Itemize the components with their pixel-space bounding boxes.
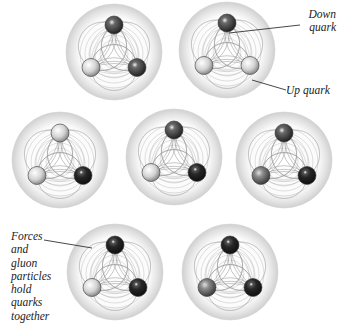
down-quark-label-line1: Down xyxy=(292,8,336,21)
hadron-sphere xyxy=(67,224,163,320)
down-quark-bottom-right-icon xyxy=(129,279,147,297)
down-quark-label-line2: quark xyxy=(292,21,336,34)
down-quark-bottom-right-icon xyxy=(244,279,262,297)
hadron-sphere xyxy=(179,2,275,98)
forces-label-line: hold xyxy=(11,283,51,296)
up-quark-bottom-left-icon xyxy=(28,167,46,185)
down-quark-bottom-right-icon xyxy=(188,164,206,182)
down-quark-top-icon xyxy=(221,236,239,254)
hadron-sphere xyxy=(182,224,278,320)
forces-label-line: and xyxy=(11,243,51,256)
forces-label-line: together xyxy=(11,310,51,323)
down-quark-bottom-right-icon xyxy=(128,59,146,77)
down-quark-bottom-left-icon xyxy=(252,167,270,185)
hadron-sphere xyxy=(66,4,162,100)
down-quark-bottom-left-icon xyxy=(198,279,216,297)
down-quark-label: Down quark xyxy=(292,8,336,34)
hadron-sphere xyxy=(126,109,222,205)
up-quark-label: Up quark xyxy=(286,84,330,97)
forces-label-line: gluon xyxy=(11,257,51,270)
down-quark-top-icon xyxy=(106,236,124,254)
down-quark-bottom-right-icon xyxy=(74,167,92,185)
up-quark-bottom-left-icon xyxy=(82,59,100,77)
down-quark-top-icon xyxy=(275,124,293,142)
down-quark-top-icon xyxy=(218,14,236,32)
forces-label: Forces and gluon particles hold quarks t… xyxy=(11,230,51,323)
up-quark-bottom-left-icon xyxy=(195,57,213,75)
up-quark-top-icon xyxy=(51,124,69,142)
down-quark-top-icon xyxy=(105,16,123,34)
up-quark-bottom-left-icon xyxy=(142,164,160,182)
forces-label-line: quarks xyxy=(11,296,51,309)
up-quark-bottom-right-icon xyxy=(241,57,259,75)
forces-label-line: particles xyxy=(11,270,51,283)
forces-label-line: Forces xyxy=(11,230,51,243)
up-quark-label-text: Up quark xyxy=(286,84,330,96)
up-quark-bottom-left-icon xyxy=(83,279,101,297)
down-quark-bottom-right-icon xyxy=(298,167,316,185)
hadron-sphere xyxy=(12,112,108,208)
down-quark-top-icon xyxy=(165,121,183,139)
hadron-sphere xyxy=(236,112,332,208)
